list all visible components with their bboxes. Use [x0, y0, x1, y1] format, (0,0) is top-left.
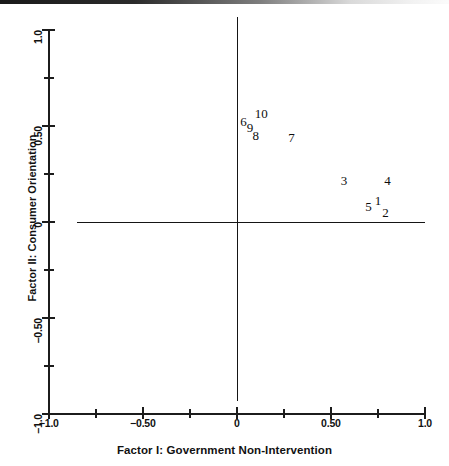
y-tick-label-0: 1.0 [32, 30, 44, 68]
y-tick-7 [44, 365, 54, 367]
data-point-label-10: 10 [255, 107, 268, 120]
y-tick-3 [44, 173, 54, 175]
y-tick-1 [44, 77, 54, 79]
x-tick-label-0: −1.0 [39, 417, 59, 429]
x-tick-7 [377, 409, 379, 418]
y-axis-title: Factor II: Consumer Orientation [26, 98, 38, 338]
x-tick-label-6: 0.50 [321, 417, 341, 429]
data-point-label-7: 7 [288, 131, 295, 144]
x-tick-label-2: −0.50 [130, 417, 156, 429]
data-point-label-3: 3 [341, 173, 348, 186]
x-tick-label-4: 0 [234, 417, 240, 429]
data-point-label-5: 5 [365, 200, 372, 213]
data-point-label-4: 4 [384, 173, 391, 186]
scatter-plot: 1.00.500−0.50−1.0 −1.0−0.5000.501.0 6109… [0, 0, 449, 466]
x-tick-3 [189, 409, 191, 418]
horizontal-zero-reference-line [77, 222, 425, 224]
y-tick-5 [44, 269, 54, 271]
x-axis-title: Factor I: Government Non-Intervention [0, 444, 449, 456]
data-point-label-6: 6 [240, 115, 247, 128]
x-tick-label-8: 1.0 [418, 417, 432, 429]
vertical-zero-reference-line [237, 17, 239, 401]
x-tick-1 [95, 409, 97, 418]
data-point-label-2: 2 [382, 206, 389, 219]
data-point-label-1: 1 [375, 193, 382, 206]
data-point-label-8: 8 [252, 129, 259, 142]
x-tick-5 [283, 409, 285, 418]
